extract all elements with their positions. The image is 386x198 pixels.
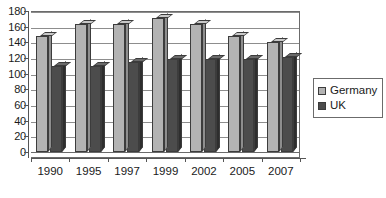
bar-germany-2002 [190, 24, 202, 152]
bar-face [50, 66, 62, 152]
x-tick-mark [31, 158, 32, 162]
bar-side [240, 31, 244, 152]
x-tick-label: 1997 [114, 165, 140, 178]
bar-face [242, 59, 254, 152]
bar-side [279, 36, 283, 152]
bar-chart: 020406080100120140160180 199019951997199… [0, 0, 386, 198]
x-tick-mark [146, 158, 147, 162]
legend-swatch-icon [318, 87, 326, 95]
x-tick-mark [223, 158, 224, 162]
bar-uk-2005 [242, 59, 254, 152]
y-axis-tick-labels: 020406080100120140160180 [0, 11, 26, 157]
bar-germany-1990 [36, 36, 48, 152]
x-tick-mark [69, 158, 70, 162]
bar-side [139, 57, 143, 152]
x-tick-label: 2002 [191, 165, 217, 178]
x-tick-mark [185, 158, 186, 162]
bar-side [202, 19, 206, 152]
bar-face [113, 24, 125, 152]
y-axis-line [28, 11, 29, 158]
bar-side [178, 54, 182, 152]
chart-legend: GermanyUK [313, 78, 383, 118]
bar-side [254, 54, 258, 152]
bar-germany-1997 [113, 24, 125, 152]
bar-side [48, 31, 52, 152]
plot-floor [31, 152, 299, 157]
bar-face [152, 18, 164, 152]
bar-side [62, 61, 66, 152]
plot-area [31, 11, 300, 158]
x-tick-mark [300, 158, 301, 162]
bar-germany-1995 [75, 24, 87, 152]
bar-side [216, 54, 220, 152]
legend-swatch-icon [318, 102, 326, 110]
x-tick-mark [262, 158, 263, 162]
bar-side [293, 52, 297, 152]
x-tick-label: 1995 [76, 165, 102, 178]
x-tick-label: 1990 [37, 165, 63, 178]
x-axis-tick-marks [31, 158, 306, 163]
bar-germany-2007 [267, 42, 279, 152]
x-tick-label: 2005 [230, 165, 256, 178]
x-tick-label: 1999 [153, 165, 179, 178]
bar-face [36, 36, 48, 152]
bar-face [190, 24, 202, 152]
legend-label: UK [330, 99, 346, 112]
bar-face [267, 42, 279, 152]
bar-face [228, 36, 240, 152]
bar-side [101, 61, 105, 152]
legend-label: Germany [330, 84, 377, 97]
bar-side [87, 19, 91, 152]
bar-side [125, 19, 129, 152]
x-tick-mark [108, 158, 109, 162]
bars-layer [31, 12, 299, 157]
bar-side [164, 13, 168, 152]
bar-face [75, 24, 87, 152]
legend-item-uk[interactable]: UK [318, 98, 377, 113]
bar-uk-1990 [50, 66, 62, 152]
x-axis-tick-labels: 1990199519971999200220052007 [31, 165, 306, 181]
x-tick-label: 2007 [268, 165, 294, 178]
bar-germany-2005 [228, 36, 240, 152]
legend-item-germany[interactable]: Germany [318, 83, 377, 98]
bar-germany-1999 [152, 18, 164, 152]
